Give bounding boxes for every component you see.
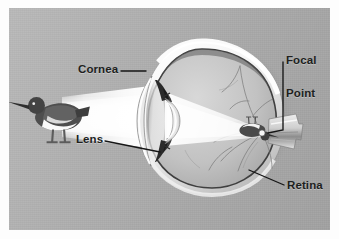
eye-diagram-figure: Cornea Lens Focal Point Retina <box>0 0 339 239</box>
label-focal-point-line2: Point <box>286 88 317 99</box>
label-lens: Lens <box>76 134 103 145</box>
label-retina: Retina <box>287 180 323 191</box>
label-focal-point: Focal Point <box>286 33 317 121</box>
label-focal-point-line1: Focal <box>286 55 317 66</box>
focal-point-marker <box>259 130 265 136</box>
label-cornea: Cornea <box>78 64 118 75</box>
